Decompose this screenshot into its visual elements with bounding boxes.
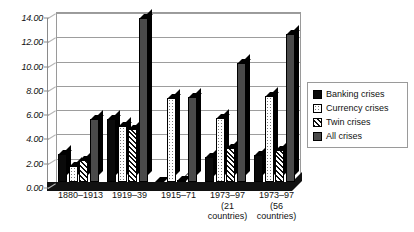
bar xyxy=(226,148,235,182)
y-axis-tick-label: 2.00 xyxy=(26,159,43,169)
bar xyxy=(107,119,116,182)
legend-label: Banking crises xyxy=(326,89,385,99)
legend-item: All crises xyxy=(313,129,403,143)
bar xyxy=(286,34,295,182)
bar xyxy=(237,63,246,182)
bar xyxy=(90,119,99,182)
y-axis-depth-connector xyxy=(48,13,56,19)
bar xyxy=(216,118,225,182)
legend-swatch-white-dotted xyxy=(313,104,322,113)
y-axis-depth-connector xyxy=(48,159,56,165)
legend-swatch-diagonal-hatch xyxy=(313,118,322,127)
bar xyxy=(188,97,197,182)
y-axis-tick-label: 14.00 xyxy=(21,13,43,23)
legend-label: Twin crises xyxy=(326,117,371,127)
x-axis-label: 1880–1913 xyxy=(58,190,103,201)
x-axis-sublabel: countries) xyxy=(208,211,248,222)
y-axis-tick-label: 6.00 xyxy=(26,110,43,120)
bar-groups xyxy=(56,12,301,182)
bar xyxy=(205,157,214,183)
bar-group xyxy=(56,12,105,182)
y-axis-depth-connector xyxy=(48,38,56,44)
bar xyxy=(58,154,67,182)
y-axis-depth-connector xyxy=(48,110,56,116)
bar xyxy=(128,129,137,182)
legend-label: All crises xyxy=(326,131,362,141)
y-axis-tick-label: 10.00 xyxy=(21,62,43,72)
y-axis-tick-label: 8.00 xyxy=(26,86,43,96)
legend-swatch-grey-stipple xyxy=(313,132,322,141)
bar-group xyxy=(203,12,252,182)
bar xyxy=(79,160,88,182)
bar-chart-figure: 0.002.004.006.008.0010.0012.0014.00 1880… xyxy=(0,0,414,232)
x-axis-sublabel: (21 xyxy=(208,201,248,212)
legend-label: Currency crises xyxy=(326,103,389,113)
legend-item: Twin crises xyxy=(313,115,403,129)
x-axis-label: 1915–71 xyxy=(161,190,196,201)
bar xyxy=(275,150,284,182)
bar xyxy=(167,98,176,182)
x-axis-sublabel: (56 xyxy=(257,201,297,212)
bar xyxy=(254,155,263,182)
y-axis-depth-connector xyxy=(48,86,56,92)
bar xyxy=(177,180,186,182)
legend-item: Banking crises xyxy=(313,87,403,101)
bar-group xyxy=(154,12,203,182)
chart-legend: Banking crisesCurrency crisesTwin crises… xyxy=(307,82,408,148)
x-axis-label: 1973–97(56countries) xyxy=(257,190,297,222)
y-axis-tick-label: 4.00 xyxy=(26,134,43,144)
x-axis-label: 1973–97(21countries) xyxy=(208,190,248,222)
bar xyxy=(139,18,148,182)
y-axis-tick-label: 12.00 xyxy=(21,37,43,47)
bar xyxy=(265,96,274,182)
bar xyxy=(118,126,127,182)
y-axis-depth-connector xyxy=(48,62,56,68)
bar xyxy=(69,166,78,182)
x-axis-sublabel: countries) xyxy=(257,211,297,222)
x-axis-label: 1919–39 xyxy=(112,190,147,201)
bar-group xyxy=(105,12,154,182)
legend-swatch-solid-black xyxy=(313,90,322,99)
x-axis-labels: 1880–19131919–391915–711973–97(21countri… xyxy=(40,190,320,232)
bar-group xyxy=(252,12,301,182)
legend-item: Currency crises xyxy=(313,101,403,115)
